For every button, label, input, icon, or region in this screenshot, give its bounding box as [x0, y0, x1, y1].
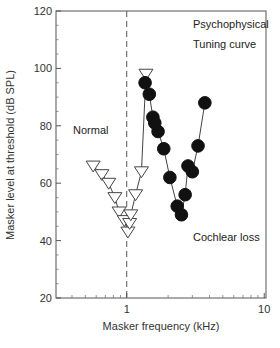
y-tick-label: 20: [40, 292, 52, 304]
y-axis: 20406080100120: [34, 5, 61, 304]
y-tick-label: 120: [34, 5, 52, 17]
y-tick-label: 80: [40, 120, 52, 132]
annotation-label: Cochlear loss: [193, 231, 260, 243]
filled-circle-marker: [143, 88, 156, 101]
annotation-label: Tuning curve: [193, 38, 256, 50]
filled-circle-marker: [157, 142, 170, 155]
filled-circle-marker: [199, 97, 212, 110]
y-axis-title: Masker level at threshold (dB SPL): [4, 70, 16, 240]
x-tick-label: 1: [124, 303, 130, 315]
y-tick-label: 60: [40, 177, 52, 189]
open-triangle-marker: [102, 178, 116, 189]
filled-circle-marker: [192, 140, 205, 153]
annotations: PsychophysicalTuning curveNormalCochlear…: [73, 18, 269, 243]
x-axis: 110: [72, 293, 270, 315]
filled-circle-marker: [139, 76, 152, 89]
series-cochlear-loss: [139, 76, 211, 221]
open-triangle-marker: [129, 190, 143, 201]
y-tick-label: 40: [40, 235, 52, 247]
filled-circle-marker: [164, 171, 177, 184]
filled-circle-marker: [175, 208, 188, 221]
x-axis-title: Masker frequency (kHz): [103, 320, 220, 332]
tuning-curve-chart: 20406080100120 110 PsychophysicalTuning …: [0, 0, 280, 348]
open-triangle-marker: [108, 193, 122, 204]
annotation-label: Psychophysical: [193, 18, 269, 30]
filled-circle-marker: [152, 125, 165, 138]
filled-circle-marker: [186, 165, 199, 178]
annotation-label: Normal: [73, 124, 108, 136]
y-tick-label: 100: [34, 62, 52, 74]
data-series: [86, 69, 211, 238]
open-triangle-marker: [134, 167, 148, 178]
x-tick-label: 10: [258, 303, 270, 315]
filled-circle-marker: [179, 188, 192, 201]
open-triangle-marker: [121, 227, 135, 238]
